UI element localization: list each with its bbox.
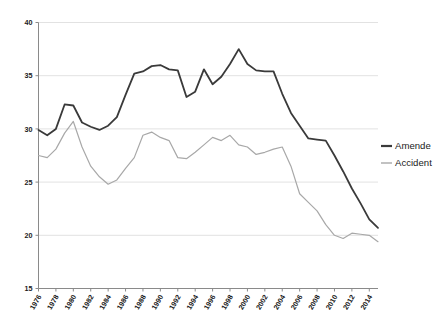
- y-tick-label: 30: [25, 125, 33, 134]
- series-line-accident: [39, 121, 379, 241]
- legend-label-accident: Accident: [395, 157, 432, 168]
- chart-legend: AmendeAccident: [381, 140, 432, 168]
- x-tick-label: 1982: [80, 293, 96, 311]
- x-tick-label: 1996: [202, 293, 218, 311]
- x-tick-label: 2002: [254, 293, 270, 311]
- x-tick-label: 1994: [184, 293, 200, 311]
- line-chart: 152025303540 197619781980198219841986198…: [0, 0, 445, 322]
- y-tick-label: 20: [25, 231, 33, 240]
- x-tick-label: 1992: [167, 293, 183, 311]
- x-tick-label: 2008: [306, 293, 322, 311]
- y-axis-tick-labels: 152025303540: [25, 18, 33, 293]
- x-tick-label: 1990: [150, 293, 166, 311]
- axes-group: [36, 23, 379, 289]
- x-tick-label: 2004: [271, 293, 287, 311]
- chart-canvas: 152025303540 197619781980198219841986198…: [0, 0, 445, 322]
- x-tick-label: 2012: [341, 293, 357, 311]
- x-tick-label: 1984: [97, 293, 113, 311]
- x-tick-label: 2006: [289, 293, 305, 311]
- x-tick-label: 1986: [115, 293, 131, 311]
- x-axis-tick-labels: 1976197819801982198419861988199019921994…: [28, 293, 375, 311]
- x-tick-label: 2000: [237, 293, 253, 311]
- x-tick-label: 1976: [28, 293, 44, 311]
- gridlines-group: [39, 23, 379, 236]
- x-tick-label: 1980: [62, 293, 78, 311]
- y-tick-label: 35: [25, 71, 33, 80]
- x-tick-label: 2010: [324, 293, 340, 311]
- x-tick-label: 2014: [358, 293, 374, 311]
- series-lines-group: [39, 49, 379, 242]
- y-tick-label: 25: [25, 178, 33, 187]
- x-tick-label: 1978: [45, 293, 61, 311]
- x-tick-label: 1998: [219, 293, 235, 311]
- legend-label-amende: Amende: [395, 140, 431, 151]
- y-tick-label: 15: [25, 284, 33, 293]
- x-tick-label: 1988: [132, 293, 148, 311]
- y-tick-label: 40: [25, 18, 33, 27]
